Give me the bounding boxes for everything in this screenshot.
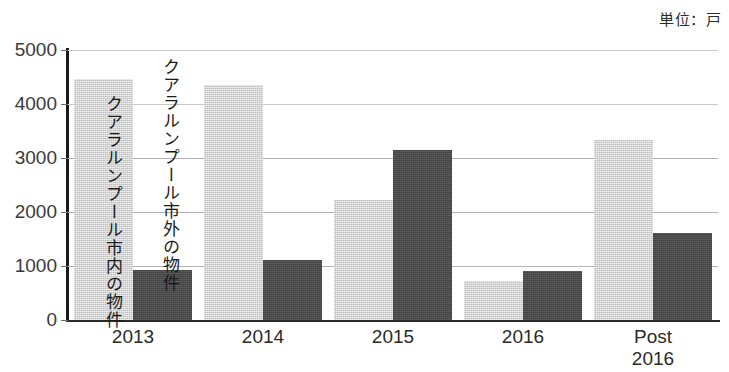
- y-tick-label-1000: 1000: [0, 256, 57, 275]
- annotation-inside-kl: クアラルンプール市内の物件: [103, 95, 122, 329]
- y-tick-label-5000: 5000: [0, 40, 57, 59]
- y-tick-label-2000: 2000: [0, 202, 57, 221]
- gridline-5000: [68, 50, 718, 51]
- y-tick-4000: [61, 104, 68, 105]
- unit-caption: 単位：戸: [659, 8, 721, 29]
- y-tick-5000: [61, 50, 68, 51]
- bar-2016-series1: [464, 281, 523, 320]
- bar-2016-series2: [523, 271, 582, 320]
- y-tick-label-4000: 4000: [0, 94, 57, 113]
- x-tick-label-post-2016: Post 2016: [588, 326, 718, 370]
- y-tick-label-3000: 3000: [0, 148, 57, 167]
- y-tick-1000: [61, 266, 68, 267]
- y-tick-0: [61, 320, 68, 321]
- y-tick-2000: [61, 212, 68, 213]
- x-axis-line: [66, 320, 720, 322]
- annotation-outside-kl: クアラルンプール市外の物件: [160, 58, 179, 292]
- y-tick-3000: [61, 158, 68, 159]
- x-tick-label-2015: 2015: [328, 326, 458, 348]
- bar-2015-series1: [334, 200, 393, 320]
- bar-post-2016-series2: [653, 233, 712, 320]
- bar-chart: 単位：戸 010002000300040005000 2013201420152…: [0, 0, 729, 372]
- bar-post-2016-series1: [594, 140, 653, 320]
- y-tick-label-0: 0: [0, 310, 57, 329]
- x-tick-label-2013: 2013: [68, 326, 198, 348]
- bar-2015-series2: [393, 150, 452, 320]
- x-tick-label-2014: 2014: [198, 326, 328, 348]
- bar-2014-series2: [263, 260, 322, 320]
- x-tick-label-2016: 2016: [458, 326, 588, 348]
- bar-2014-series1: [204, 85, 263, 320]
